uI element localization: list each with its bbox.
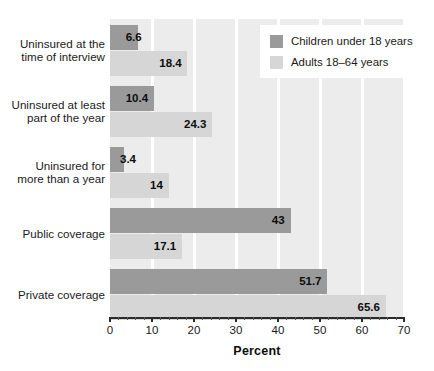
x-axis-title: Percent (110, 344, 404, 358)
category-label-line: Uninsured for (0, 159, 105, 173)
legend: Children under 18 years Adults 18–64 yea… (260, 25, 434, 78)
x-tick (361, 317, 362, 322)
category-label: Uninsured at thetime of interview (0, 37, 105, 64)
x-minor-tick (127, 317, 128, 320)
bar-value-label: 43 (263, 208, 285, 233)
category-label-line: Uninsured at least (0, 98, 105, 112)
x-minor-tick (211, 317, 212, 320)
x-tick (151, 317, 152, 322)
x-minor-tick (228, 317, 229, 320)
x-minor-tick (219, 317, 220, 320)
legend-label-adults: Adults 18–64 years (291, 56, 389, 68)
category-label-line: Public coverage (0, 227, 105, 241)
legend-item-children: Children under 18 years (270, 31, 434, 51)
bar-value-label: 51.7 (299, 269, 321, 294)
x-tick-label: 40 (272, 324, 285, 336)
category-label: Private coverage (0, 288, 105, 302)
x-minor-tick (303, 317, 304, 320)
x-minor-tick (337, 317, 338, 320)
bar (110, 269, 327, 294)
x-tick (319, 317, 320, 322)
x-minor-tick (160, 317, 161, 320)
bar-value-label: 17.1 (154, 234, 176, 259)
bar-value-label: 18.4 (159, 51, 181, 76)
x-tick-label: 50 (314, 324, 327, 336)
category-label-line: more than a year (0, 172, 105, 186)
category-label: Public coverage (0, 227, 105, 241)
x-minor-tick (118, 317, 119, 320)
bar-value-label: 6.6 (116, 25, 142, 50)
x-minor-tick (270, 317, 271, 320)
category-label: Uninsured formore than a year (0, 159, 105, 186)
bar-chart: 6.618.410.424.33.4144317.151.765.6 Unins… (0, 0, 434, 371)
category-label-line: part of the year (0, 111, 105, 125)
legend-item-adults: Adults 18–64 years (270, 52, 434, 72)
x-minor-tick (261, 317, 262, 320)
x-minor-tick (354, 317, 355, 320)
x-minor-tick (328, 317, 329, 320)
x-minor-tick (186, 317, 187, 320)
x-tick-label: 70 (398, 324, 411, 336)
x-minor-tick (202, 317, 203, 320)
bar-value-label: 24.3 (184, 112, 206, 137)
category-label-line: time of interview (0, 50, 105, 64)
legend-label-children: Children under 18 years (291, 35, 413, 47)
x-tick-label: 10 (146, 324, 159, 336)
x-minor-tick (177, 317, 178, 320)
x-minor-tick (312, 317, 313, 320)
x-tick (277, 317, 278, 322)
x-minor-tick (135, 317, 136, 320)
legend-swatch-children-icon (270, 35, 283, 48)
x-tick-label: 20 (188, 324, 201, 336)
x-minor-tick (286, 317, 287, 320)
x-minor-tick (144, 317, 145, 320)
x-tick (109, 317, 110, 322)
x-minor-tick (379, 317, 380, 320)
category-label-line: Uninsured at the (0, 37, 105, 51)
x-tick (193, 317, 194, 322)
x-minor-tick (345, 317, 346, 320)
category-label-line: Private coverage (0, 288, 105, 302)
x-tick (235, 317, 236, 322)
bar-value-label: 3.4 (110, 147, 136, 172)
x-minor-tick (396, 317, 397, 320)
x-minor-tick (370, 317, 371, 320)
bar-value-label: 10.4 (126, 86, 148, 111)
x-minor-tick (295, 317, 296, 320)
x-tick-label: 30 (230, 324, 243, 336)
x-minor-tick (387, 317, 388, 320)
category-label: Uninsured at leastpart of the year (0, 98, 105, 125)
x-minor-tick (169, 317, 170, 320)
x-tick-label: 60 (356, 324, 369, 336)
x-tick-label: 0 (107, 324, 113, 336)
x-minor-tick (244, 317, 245, 320)
legend-swatch-adults-icon (270, 56, 283, 69)
bar-value-label: 14 (141, 173, 163, 198)
x-tick (403, 317, 404, 322)
x-minor-tick (253, 317, 254, 320)
